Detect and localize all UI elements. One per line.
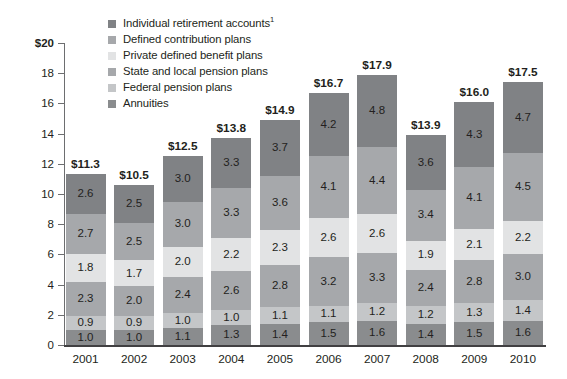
bar-segment[interactable]: 2.3 <box>66 282 106 317</box>
bar-segment[interactable]: 3.4 <box>406 190 446 241</box>
bar-segment-value: 3.6 <box>418 157 434 169</box>
bar-segment[interactable]: 4.1 <box>309 156 349 218</box>
y-axis-tick <box>58 164 64 165</box>
bar-segment[interactable]: 0.9 <box>66 316 106 330</box>
bar-stack: 3.73.62.32.81.11.4 <box>260 120 300 345</box>
bar-column[interactable]: $17.94.84.42.63.31.21.62007 <box>357 75 397 345</box>
bar-segment[interactable]: 3.3 <box>357 253 397 303</box>
bar-segment[interactable]: 1.2 <box>406 306 446 324</box>
bar-segment[interactable]: 1.0 <box>211 310 251 325</box>
bar-segment[interactable]: 2.8 <box>454 260 494 302</box>
bar-segment[interactable]: 1.4 <box>260 324 300 345</box>
bar-segment[interactable]: 1.3 <box>454 303 494 323</box>
bar-column[interactable]: $16.04.34.12.12.81.31.52009 <box>454 102 494 345</box>
bar-segment-value: 1.0 <box>126 332 142 344</box>
bar-segment[interactable]: 3.0 <box>163 202 203 247</box>
bar-column[interactable]: $17.54.74.52.23.01.41.62010 <box>503 82 543 345</box>
bar-segment[interactable]: 3.0 <box>163 156 203 201</box>
bar-segment[interactable]: 2.5 <box>114 223 154 261</box>
bar-segment-value: 1.3 <box>223 329 239 341</box>
bar-segment[interactable]: 1.4 <box>406 324 446 345</box>
legend-item-label: Individual retirement accounts1 <box>123 17 274 30</box>
bar-segment[interactable]: 2.0 <box>114 286 154 316</box>
bar-segment-value: 1.1 <box>272 310 288 322</box>
bar-segment[interactable]: 2.2 <box>503 221 543 254</box>
bar-segment[interactable]: 1.1 <box>163 328 203 345</box>
y-axis-tick <box>58 254 64 255</box>
bar-segment[interactable]: 3.2 <box>309 257 349 305</box>
bar-segment-value: 3.2 <box>321 276 337 288</box>
legend-item[interactable]: Individual retirement accounts1 <box>108 16 274 31</box>
bar-segment[interactable]: 1.6 <box>357 321 397 345</box>
bar-column[interactable]: $16.74.24.12.63.21.11.52006 <box>309 93 349 345</box>
bar-stack: 2.62.71.82.30.91.0 <box>66 174 106 345</box>
bar-segment[interactable]: 1.4 <box>503 300 543 321</box>
bar-segment[interactable]: 1.3 <box>211 325 251 345</box>
bar-segment[interactable]: 2.6 <box>211 271 251 310</box>
y-axis-tick-label: 4 <box>48 279 54 291</box>
bar-stack: 3.63.41.92.41.21.4 <box>406 135 446 345</box>
bar-total-label: $17.9 <box>362 58 392 72</box>
bar-segment[interactable]: 1.7 <box>114 260 154 286</box>
bar-column[interactable]: $13.83.33.32.22.61.01.32004 <box>211 138 251 345</box>
bar-segment[interactable]: 1.1 <box>260 307 300 324</box>
bar-stack: 4.74.52.23.01.41.6 <box>503 82 543 345</box>
bar-segment[interactable]: 2.1 <box>454 229 494 261</box>
bar-segment[interactable]: 2.3 <box>260 230 300 265</box>
bar-segment[interactable]: 1.6 <box>503 321 543 345</box>
bar-column[interactable]: $12.53.03.02.02.41.01.12003 <box>163 156 203 345</box>
bar-segment[interactable]: 4.4 <box>357 147 397 213</box>
bar-segment[interactable]: 1.5 <box>309 322 349 345</box>
bar-segment[interactable]: 4.8 <box>357 75 397 147</box>
bar-column[interactable]: $13.93.63.41.92.41.21.42008 <box>406 135 446 345</box>
bar-segment[interactable]: 0.9 <box>114 316 154 330</box>
x-axis-tick-label: 2005 <box>267 352 293 366</box>
x-axis-tick-label: 2006 <box>315 352 341 366</box>
bar-segment[interactable]: 4.3 <box>454 102 494 167</box>
bar-segment-value: 2.1 <box>466 239 482 251</box>
bar-segment[interactable]: 1.0 <box>66 330 106 345</box>
bar-column[interactable]: $10.52.52.51.72.00.91.02002 <box>114 185 154 345</box>
y-axis-tick-label: 10 <box>41 188 54 200</box>
bar-segment[interactable]: 2.5 <box>114 185 154 223</box>
bar-segment-value: 3.3 <box>223 157 239 169</box>
bar-segment[interactable]: 3.6 <box>406 135 446 189</box>
bar-segment[interactable]: 3.3 <box>211 188 251 238</box>
bar-segment[interactable]: 2.7 <box>66 214 106 255</box>
bar-segment[interactable]: 3.3 <box>211 138 251 188</box>
bar-segment[interactable]: 1.5 <box>454 322 494 345</box>
bar-segment[interactable]: 1.9 <box>406 241 446 270</box>
bar-column[interactable]: $11.32.62.71.82.30.91.02001 <box>66 174 106 345</box>
bar-segment[interactable]: 2.0 <box>163 247 203 277</box>
bar-segment[interactable]: 1.0 <box>114 330 154 345</box>
x-axis-tick-label: 2001 <box>72 352 98 366</box>
bar-segment[interactable]: 3.6 <box>260 176 300 230</box>
bar-total-label: $10.5 <box>119 168 149 182</box>
bar-segment[interactable]: 4.1 <box>454 167 494 229</box>
bar-segment[interactable]: 2.2 <box>211 238 251 271</box>
bar-segment[interactable]: 2.6 <box>309 218 349 257</box>
bar-segment[interactable]: 2.6 <box>66 174 106 213</box>
bar-column[interactable]: $14.93.73.62.32.81.11.42005 <box>260 120 300 345</box>
bar-total-label: $13.8 <box>217 121 247 135</box>
bar-segment-value: 1.9 <box>418 249 434 261</box>
bar-segment[interactable]: 1.1 <box>309 306 349 323</box>
bar-segment[interactable]: 4.2 <box>309 93 349 156</box>
bar-segment[interactable]: 3.7 <box>260 120 300 176</box>
bar-segment[interactable]: 3.0 <box>503 254 543 299</box>
bar-segment[interactable]: 2.6 <box>357 214 397 253</box>
bar-segment-value: 4.8 <box>369 105 385 117</box>
bar-segment[interactable]: 4.7 <box>503 82 543 153</box>
bar-segment[interactable]: 1.0 <box>163 313 203 328</box>
y-axis-tick-label: 14 <box>41 128 54 140</box>
bar-total-label: $11.3 <box>71 157 100 171</box>
bar-segment[interactable]: 2.4 <box>406 270 446 306</box>
bar-segment[interactable]: 1.2 <box>357 303 397 321</box>
bar-segment[interactable]: 2.8 <box>260 265 300 307</box>
bar-segment[interactable]: 4.5 <box>503 153 543 221</box>
bar-segment[interactable]: 2.4 <box>163 277 203 313</box>
y-axis-tick-label: 2 <box>48 309 54 321</box>
bar-segment-value: 4.1 <box>466 192 482 204</box>
bar-segment-value: 3.3 <box>223 207 239 219</box>
bar-segment[interactable]: 1.8 <box>66 254 106 281</box>
